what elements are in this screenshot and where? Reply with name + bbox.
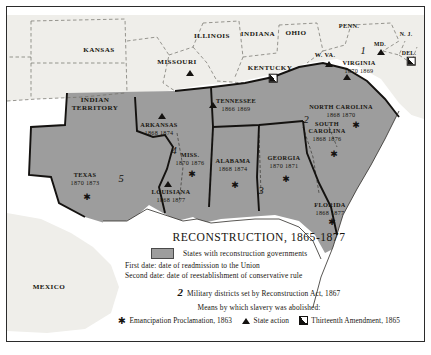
legend-district-text: Military districts set by Reconstruction… xyxy=(187,289,340,298)
military-district-1: 1 xyxy=(360,45,365,56)
legend-item-state-action: State action xyxy=(242,316,289,325)
map-frame: KANSASINDIANTERRITORYMISSOURIILLINOISIND… xyxy=(6,6,425,342)
legend-districts-row: 2 Military districts set by Reconstructi… xyxy=(125,286,393,298)
reconstruction-map-figure: KANSASINDIANTERRITORYMISSOURIILLINOISIND… xyxy=(0,0,431,355)
military-district-4: 4 xyxy=(171,145,176,156)
reconstruction-swatch xyxy=(151,248,174,259)
star-symbol: ✱ xyxy=(118,317,126,325)
legend-title: RECONSTRUCTION, 1865-1877 xyxy=(125,231,393,244)
legend-swatch-row: States with reconstruction governments xyxy=(125,248,393,259)
legend-second-date-note: Second date: date of reestablishment of … xyxy=(125,271,393,280)
legend-symbol-label: Emancipation Proclamation, 1863 xyxy=(129,316,232,325)
legend-item-emancipation-proclamation-1863: ✱Emancipation Proclamation, 1863 xyxy=(118,316,232,325)
military-district-3: 3 xyxy=(258,185,263,196)
legend-swatch-label: States with reconstruction governments xyxy=(183,249,307,258)
legend-symbol-label: Thirteenth Amendment, 1865 xyxy=(311,316,400,325)
half-square-symbol xyxy=(299,316,308,325)
military-district-2: 2 xyxy=(303,114,308,125)
legend-symbol-label: State action xyxy=(254,316,289,325)
military-district-5: 5 xyxy=(118,173,123,184)
map-legend: RECONSTRUCTION, 1865-1877 States with re… xyxy=(125,231,393,325)
legend-symbol-row: ✱Emancipation Proclamation, 1863State ac… xyxy=(125,316,393,325)
legend-item-thirteenth-amendment-1865: Thirteenth Amendment, 1865 xyxy=(299,316,400,325)
triangle-symbol xyxy=(242,318,250,324)
legend-means-heading: Means by which slavery was abolished: xyxy=(125,303,393,312)
legend-district-number: 2 xyxy=(178,286,184,298)
legend-first-date-note: First date: date of readmission to the U… xyxy=(125,261,393,270)
